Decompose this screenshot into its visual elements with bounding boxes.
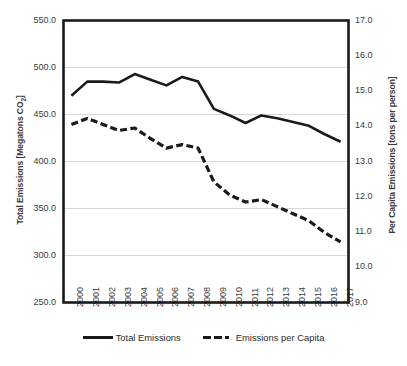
legend-swatch-solid-icon [83,336,113,339]
legend-swatch-dashed-icon [203,336,233,339]
legend-label-emissions-per-capita: Emissions per Capita [236,332,325,343]
plot-area [0,0,407,366]
legend-label-total-emissions: Total Emissions [116,332,181,343]
series-line-emissions-per-capita [71,118,340,241]
legend-item-emissions-per-capita: Emissions per Capita [203,332,325,343]
series-line-total-emissions [71,74,340,142]
chart-legend: Total Emissions Emissions per Capita [0,332,407,343]
emissions-line-chart: Total Emissions [Megatons CO2] Per Capit… [0,0,407,366]
legend-item-total-emissions: Total Emissions [83,332,181,343]
series-lines [71,74,340,242]
